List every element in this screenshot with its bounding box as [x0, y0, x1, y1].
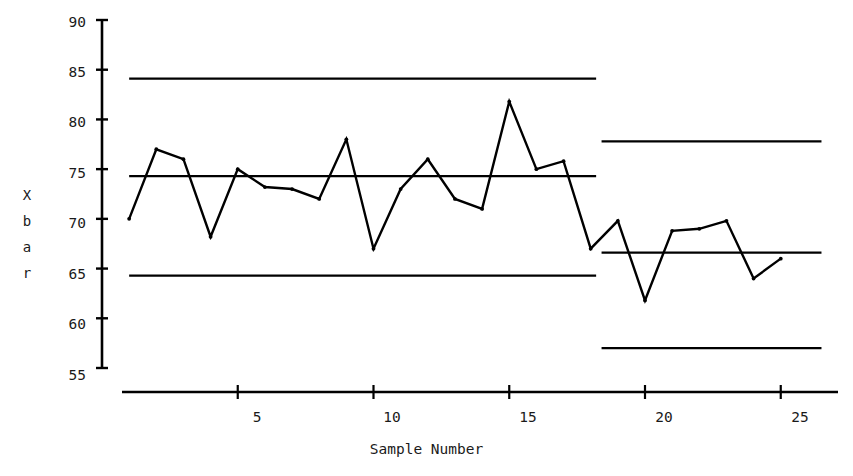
- data-point: [236, 167, 240, 171]
- data-point: [453, 197, 457, 201]
- data-point: [263, 185, 267, 189]
- data-point: [697, 227, 701, 231]
- data-point: [535, 167, 539, 171]
- plot-area: [0, 0, 853, 476]
- control-chart: X b a r 90 85 80 75 70 65 60 55 5 10 15 …: [0, 0, 853, 476]
- axes-group: [96, 20, 838, 399]
- data-point: [399, 187, 403, 191]
- data-point: [317, 197, 321, 201]
- data-point: [643, 298, 647, 302]
- data-point: [154, 147, 158, 151]
- data-point: [372, 247, 376, 251]
- data-point: [426, 157, 430, 161]
- data-point: [480, 207, 484, 211]
- data-point: [290, 187, 294, 191]
- control-limit-lines: [129, 79, 821, 348]
- data-point: [670, 229, 674, 233]
- data-point: [589, 247, 593, 251]
- data-point: [182, 157, 186, 161]
- data-point: [725, 219, 729, 223]
- series-line-0: [129, 102, 781, 301]
- data-series-group: [127, 100, 782, 303]
- data-point: [209, 235, 213, 239]
- data-point: [752, 277, 756, 281]
- data-point: [507, 100, 511, 104]
- data-point: [127, 217, 131, 221]
- data-point: [562, 159, 566, 163]
- data-point: [344, 137, 348, 141]
- data-point: [616, 219, 620, 223]
- data-point: [779, 257, 783, 261]
